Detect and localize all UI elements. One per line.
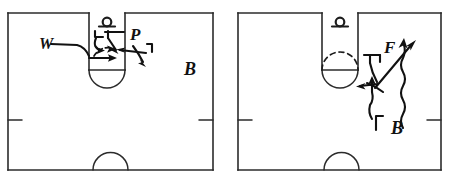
left-label-b: B [183,59,196,79]
right-goal-area-arc [322,70,358,88]
left-panel: W P [8,13,213,170]
figure-root: W P [0,0,449,187]
right-panel: F B [238,13,441,170]
right-wavy-shot-arrow-head [399,38,408,49]
right-descending-stroke [369,92,372,119]
left-arrow-p-run [133,46,143,62]
left-goal-icon [99,18,115,27]
left-arrow-curl-head [96,47,105,54]
right-center-arc [324,153,359,171]
right-label-b: B [390,118,403,138]
tactics-diagram-svg: W P [0,0,449,187]
left-hook-mark-2 [147,44,152,52]
right-goal-icon [332,18,348,27]
right-goal-box [322,13,358,70]
right-label-f: F [383,38,396,57]
left-goal-area-arc [89,70,125,88]
left-center-arc [93,153,128,171]
left-hook-mark-1 [95,31,103,37]
right-goal-area-dashed-arc [322,52,358,70]
right-court-outline [238,13,441,170]
left-w-leader [51,44,89,56]
right-hook-mark-2 [376,116,383,130]
left-label-p: P [129,25,141,44]
